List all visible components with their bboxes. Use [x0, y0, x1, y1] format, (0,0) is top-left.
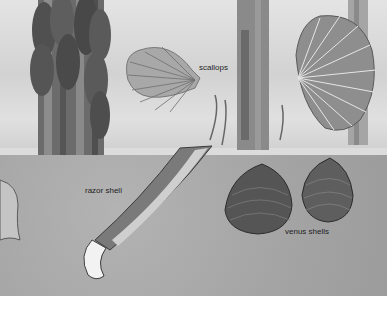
kelp-stalk-left	[30, 0, 111, 155]
razor-shell	[84, 146, 212, 279]
venus-shell-right	[302, 158, 353, 222]
scallop-large	[296, 16, 376, 131]
partial-shell-left-edge	[0, 180, 20, 240]
venus-shell-left	[225, 164, 292, 234]
illustration-drawing	[0, 0, 387, 296]
seabed-illustration: scallops razor shell venus shells	[0, 0, 387, 296]
kelp-stalk-middle	[210, 0, 283, 150]
scallop-small	[127, 47, 201, 112]
label-scallops: scallops	[199, 63, 228, 72]
label-razor-shell: razor shell	[85, 186, 122, 195]
bottom-margin	[0, 296, 387, 320]
label-venus-shells: venus shells	[285, 227, 329, 236]
